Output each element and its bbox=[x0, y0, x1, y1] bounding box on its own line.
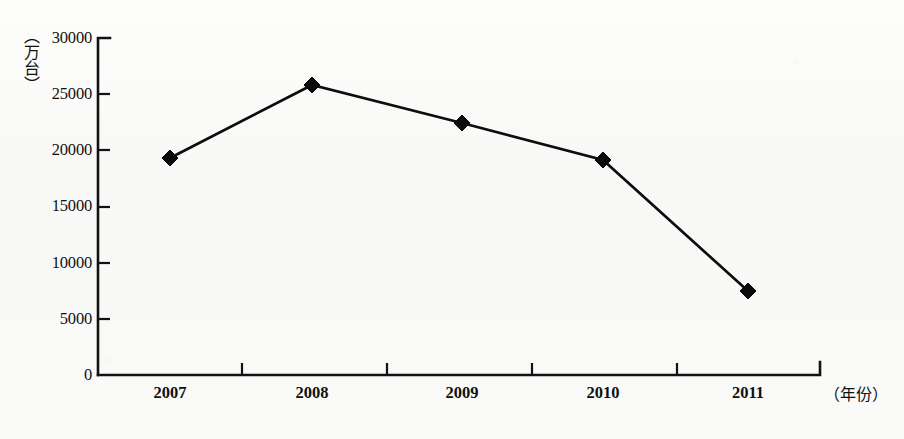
plot-area bbox=[0, 0, 904, 439]
data-point-2007 bbox=[162, 150, 178, 166]
data-point-2008 bbox=[304, 77, 320, 93]
line-chart-figure: （万台） 30000 25000 20000 15000 10000 5000 … bbox=[0, 0, 904, 439]
x-axis-line bbox=[98, 362, 820, 375]
data-series-line bbox=[170, 85, 748, 291]
data-point-2009 bbox=[454, 115, 470, 131]
